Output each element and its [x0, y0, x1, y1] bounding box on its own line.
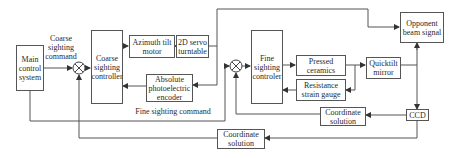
coordinate-solution-right-block: Coordinate solution — [320, 107, 366, 126]
coarse-sighting-command-label: Coarse sighting command — [44, 34, 78, 61]
opponent-beam-signal-label: Opponent beam signal — [401, 19, 443, 37]
main-control-system-block: Main control system — [16, 45, 44, 91]
2d-servo-turntable-block: 2D servo turntable — [176, 35, 209, 58]
2d-servo-turntable-label: 2D servo turntable — [177, 38, 208, 56]
azimuth-tilt-motor-label: Azimuth tilt motor — [130, 38, 174, 56]
pressed-ceramics-block: Pressed ceramics — [296, 55, 346, 76]
opponent-beam-signal-block: Opponent beam signal — [400, 12, 444, 43]
resistance-strain-gauge-label: Resistance strain gauge — [297, 81, 345, 99]
azimuth-tilt-motor-block: Azimuth tilt motor — [129, 35, 175, 58]
resistance-strain-gauge-block: Resistance strain gauge — [296, 79, 346, 101]
coarse-sighting-controller-label: Coarse sighting controller — [91, 54, 122, 81]
coordinate-solution-bottom-label: Coordinate solution — [218, 130, 264, 148]
absolute-photoelectric-encoder-block: Absolute photoelectric encoder — [146, 74, 193, 102]
coordinate-solution-right-label: Coordinate solution — [321, 108, 365, 126]
fine-sighting-controller-block: Fine sighting controler — [251, 30, 283, 104]
fine-sighting-controller-label: Fine sighting controler — [252, 54, 282, 81]
ccd-label: CCD — [409, 111, 425, 120]
pressed-ceramics-label: Pressed ceramics — [297, 57, 345, 75]
quicktilt-mirror-label: Quicktilt mirror — [367, 59, 400, 77]
ccd-block: CCD — [406, 109, 429, 121]
absolute-photoelectric-encoder-label: Absolute photoelectric encoder — [147, 75, 192, 102]
coarse-sighting-controller-block: Coarse sighting controller — [91, 30, 123, 104]
coordinate-solution-bottom-block: Coordinate solution — [217, 129, 265, 149]
main-control-system-label: Main control system — [17, 55, 43, 82]
quicktilt-mirror-block: Quicktilt mirror — [366, 57, 401, 79]
fine-sighting-command-label: Fine sighting command — [118, 107, 228, 116]
